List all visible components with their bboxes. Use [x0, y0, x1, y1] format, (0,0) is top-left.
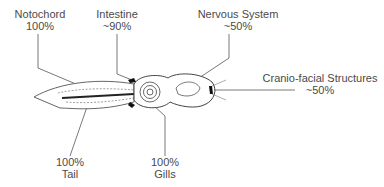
tail-label: 100% Tail	[50, 156, 90, 180]
tail-value: 100%	[50, 156, 90, 168]
tail-leader-line	[70, 104, 88, 156]
nervous-system-name: Nervous System	[193, 8, 283, 20]
intestine-label: Intestine ~90%	[92, 8, 142, 32]
gills-value: 100%	[145, 156, 185, 168]
notochord-label: Notochord 100%	[10, 8, 70, 32]
gills-name: Gills	[145, 168, 185, 180]
notochord-value: 100%	[10, 20, 70, 32]
intestine-name: Intestine	[92, 8, 142, 20]
gills-label: 100% Gills	[145, 156, 185, 180]
notochord-name: Notochord	[10, 8, 70, 20]
nervous-system-value: ~50%	[193, 20, 283, 32]
body-shape	[134, 74, 215, 108]
cranio-facial-label: Cranio-facial Structures ~50%	[258, 72, 382, 96]
tail-name: Tail	[50, 168, 90, 180]
cranio-facial-value: ~50%	[258, 84, 382, 96]
nervous-system-label: Nervous System ~50%	[193, 8, 283, 32]
cranio-facial-name: Cranio-facial Structures	[258, 72, 382, 84]
intestine-value: ~90%	[92, 20, 142, 32]
